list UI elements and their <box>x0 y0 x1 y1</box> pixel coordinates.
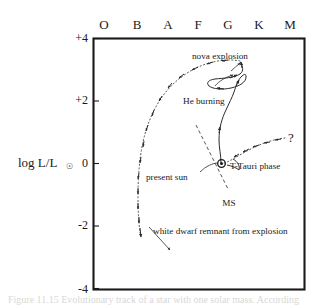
nova-leader <box>231 63 240 71</box>
figure-caption: Figure 11.15 Evolutionary track of a sta… <box>8 294 299 305</box>
ms-leader <box>196 125 228 189</box>
y-axis-title-sun-symbol: ☉ <box>66 162 73 171</box>
spectral-class-axis: O B A F G K M <box>99 17 296 32</box>
lum-label-plus4: +4 <box>75 31 88 45</box>
annotation-present-sun: present sun <box>146 172 188 182</box>
hr-diagram-figure: O B A F G K M +4 +2 0 -2 -4 log L/L ☉ <box>0 0 324 305</box>
figure-caption-strip: Figure 11.15 Evolutionary track of a sta… <box>0 294 324 305</box>
spectral-label-G: G <box>223 17 232 32</box>
giant-branch-curve <box>219 77 241 163</box>
annotation-he-burning: He burning <box>183 96 225 106</box>
lum-label-minus2: -2 <box>78 218 88 232</box>
decline-direction-arrows <box>138 60 228 237</box>
ascent-arrow-2 <box>236 80 239 86</box>
spectral-label-A: A <box>163 17 173 32</box>
spectral-label-F: F <box>194 17 201 32</box>
hr-diagram-svg: O B A F G K M +4 +2 0 -2 -4 log L/L ☉ <box>0 0 324 305</box>
nova-approach-arrow <box>241 62 242 68</box>
spectral-label-B: B <box>133 17 142 32</box>
annotation-t-tauri-phase: T-Tauri phase <box>230 161 280 171</box>
annotation-white-dwarf: white dwarf remnant from explosion <box>153 226 288 236</box>
annotation-nova-explosion: nova explosion <box>192 51 248 61</box>
lum-label-plus2: +2 <box>75 93 88 107</box>
annotation-question-mark: ? <box>288 130 294 145</box>
spectral-label-O: O <box>99 17 108 32</box>
he-burning-leader <box>215 75 233 86</box>
spectral-label-K: K <box>254 17 264 32</box>
annotation-ms: MS <box>222 198 235 208</box>
luminosity-axis: +4 +2 0 -2 -4 <box>75 31 88 296</box>
track-post-nova-decline <box>138 60 240 237</box>
y-axis-title-text: log L/L <box>18 155 57 170</box>
lum-label-zero: 0 <box>82 156 88 170</box>
y-axis-title: log L/L ☉ <box>18 155 73 171</box>
spectral-label-M: M <box>284 17 296 32</box>
